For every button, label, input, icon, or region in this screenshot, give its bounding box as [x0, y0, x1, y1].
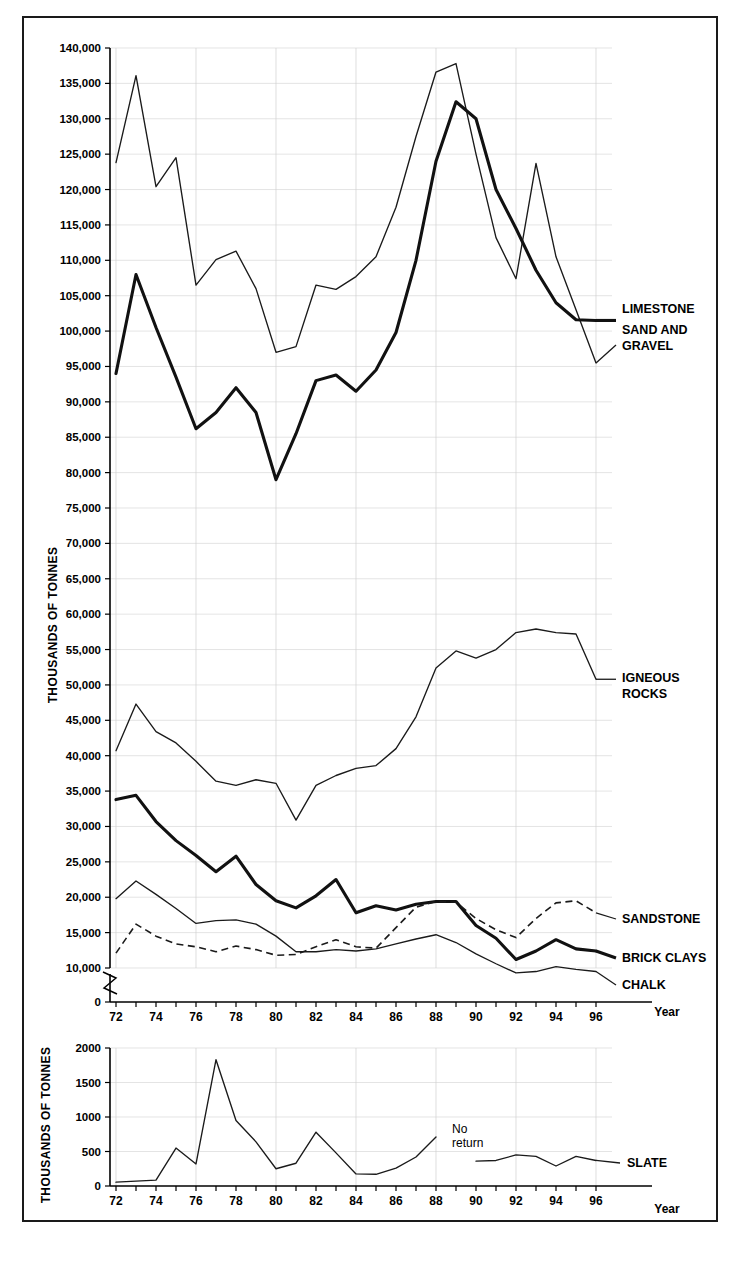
x-tick-label: 74	[149, 1194, 163, 1208]
series-label-sandstone: SANDSTONE	[622, 912, 700, 926]
y-tick-label: 45,000	[66, 714, 101, 726]
y-tick-label: 35,000	[66, 785, 101, 797]
y-tick-label: 75,000	[66, 502, 101, 514]
y-tick-label: 1500	[75, 1077, 101, 1089]
x-tick-label: 76	[189, 1010, 203, 1024]
x-tick-label: 80	[269, 1194, 283, 1208]
series-label-chalk: CHALK	[622, 978, 666, 992]
x-tick-label: 94	[549, 1194, 563, 1208]
x-tick-label: 90	[469, 1010, 483, 1024]
lower-x-tick-labels: 72747678808284868890929496	[109, 1186, 603, 1208]
lower-y-axis-label: THOUSANDS OF TONNES	[39, 1047, 53, 1204]
y-tick-label: 25,000	[66, 856, 101, 868]
y-tick-label: 120,000	[59, 184, 101, 196]
series-label-brick-clays: BRICK CLAYS	[622, 951, 706, 965]
upper-axes	[103, 48, 652, 1002]
lower-y-tick-labels: 0500100015002000	[75, 1042, 110, 1192]
x-tick-label: 72	[109, 1010, 123, 1024]
x-tick-label: 96	[589, 1194, 603, 1208]
y-tick-label: 10,000	[66, 962, 101, 974]
leader-line	[596, 972, 616, 985]
y-tick-label: 20,000	[66, 891, 101, 903]
x-tick-label: 82	[309, 1194, 323, 1208]
leader-line	[596, 913, 616, 919]
x-tick-label: 96	[589, 1010, 603, 1024]
y-tick-label: 70,000	[66, 537, 101, 549]
series-label-igneous-rocks-line2: ROCKS	[622, 687, 667, 701]
axis-break-symbol	[103, 972, 117, 994]
y-tick-label: 130,000	[59, 113, 101, 125]
y-tick-label: 2000	[75, 1042, 101, 1054]
x-tick-label: 72	[109, 1194, 123, 1208]
upper-x-tick-labels: 72747678808284868890929496	[109, 1002, 603, 1024]
x-tick-label: 74	[149, 1010, 163, 1024]
series-line-slate	[476, 1155, 596, 1166]
x-tick-label: 84	[349, 1010, 363, 1024]
series-label-slate: SLATE	[627, 1156, 667, 1170]
y-tick-label: 140,000	[59, 42, 101, 54]
x-tick-label: 88	[429, 1194, 443, 1208]
x-tick-label: 86	[389, 1010, 403, 1024]
y-tick-label: 65,000	[66, 573, 101, 585]
leader-line	[596, 951, 616, 958]
y-tick-label: 125,000	[59, 148, 101, 160]
chart-figure: 010,00015,00020,00025,00030,00035,00040,…	[0, 0, 744, 1268]
annotation-no-return-line2: return	[452, 1136, 483, 1150]
lower-gridlines	[110, 1048, 612, 1186]
x-tick-label: 84	[349, 1194, 363, 1208]
y-tick-label: 85,000	[66, 431, 101, 443]
y-tick-label: 135,000	[59, 77, 101, 89]
x-tick-label: 76	[189, 1194, 203, 1208]
y-tick-label: 110,000	[60, 254, 101, 266]
y-tick-label: 80,000	[66, 467, 101, 479]
y-tick-label: 500	[82, 1146, 101, 1158]
y-tick-label: 105,000	[59, 290, 101, 302]
y-tick-label: 1000	[75, 1111, 101, 1123]
upper-leader-lines	[596, 320, 616, 985]
series-label-sand-and-gravel-line2: GRAVEL	[622, 339, 674, 353]
y-tick-label: 90,000	[66, 396, 101, 408]
chart-svg: 010,00015,00020,00025,00030,00035,00040,…	[0, 0, 744, 1268]
y-tick-label: 50,000	[66, 679, 101, 691]
x-tick-label: 86	[389, 1194, 403, 1208]
x-tick-label: 92	[509, 1194, 523, 1208]
y-tick-label: 100,000	[59, 325, 101, 337]
y-tick-label: 30,000	[66, 820, 101, 832]
series-label-sand-and-gravel-line1: SAND AND	[622, 323, 688, 337]
y-tick-label: 60,000	[66, 608, 101, 620]
y-tick-label: 55,000	[66, 644, 101, 656]
y-tick-label: 95,000	[66, 360, 101, 372]
series-label-igneous-rocks-line1: IGNEOUS	[622, 671, 680, 685]
upper-y-tick-labels: 010,00015,00020,00025,00030,00035,00040,…	[59, 42, 110, 1008]
y-tick-label: 115,000	[60, 219, 101, 231]
y-tick-label: 15,000	[66, 927, 101, 939]
upper-gridlines	[110, 48, 612, 968]
leader-line	[596, 1160, 620, 1163]
y-tick-label: 0	[95, 996, 101, 1008]
x-tick-label: 80	[269, 1010, 283, 1024]
upper-y-axis-label: THOUSANDS OF TONNES	[46, 547, 60, 704]
leader-line	[596, 345, 616, 363]
y-tick-label: 0	[95, 1180, 101, 1192]
annotation-no-return-line1: No	[452, 1122, 468, 1136]
lower-x-axis-label: Year	[654, 1202, 680, 1216]
upper-x-axis-label: Year	[654, 1005, 680, 1019]
lower-series-lines	[116, 1060, 620, 1182]
x-tick-label: 78	[229, 1194, 243, 1208]
x-tick-label: 92	[509, 1010, 523, 1024]
x-tick-label: 90	[469, 1194, 483, 1208]
x-tick-label: 88	[429, 1010, 443, 1024]
x-tick-label: 94	[549, 1010, 563, 1024]
series-label-limestone: LIMESTONE	[622, 302, 695, 316]
x-tick-label: 82	[309, 1010, 323, 1024]
x-tick-label: 78	[229, 1010, 243, 1024]
y-tick-label: 40,000	[66, 750, 101, 762]
